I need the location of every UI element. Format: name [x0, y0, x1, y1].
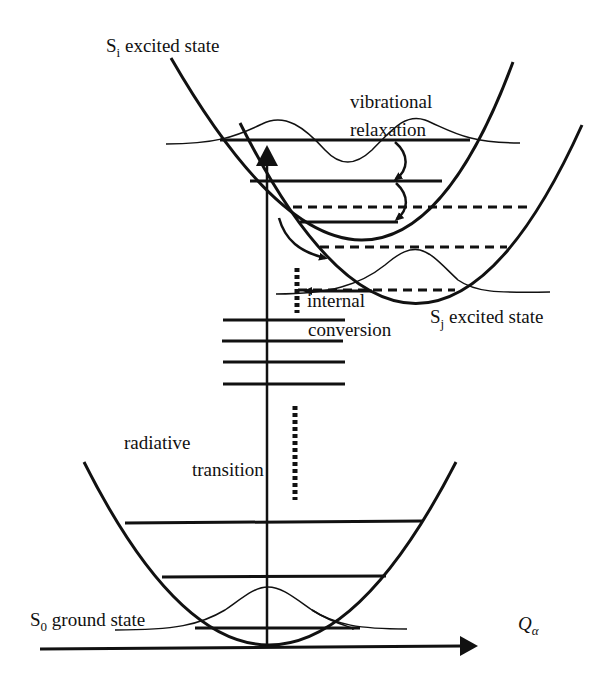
- q-alpha-label: Qα: [518, 613, 540, 638]
- vibrational-relaxation-arrow-1: [395, 142, 406, 179]
- si-vibrational-levels: [220, 140, 470, 222]
- s0-wavefunction: [115, 587, 354, 630]
- radiative-transition-arrowhead: [256, 145, 278, 166]
- q-alpha-axis-arrowhead: [460, 636, 478, 656]
- sj-vibrational-levels: [293, 207, 528, 290]
- internal-conversion-label-line1: internal: [307, 290, 365, 311]
- s0-vibrational-levels: [125, 521, 423, 628]
- q-alpha-axis: [40, 646, 462, 649]
- vibrational-relaxation-label-line1: vibrational: [350, 91, 432, 112]
- radiative-transition-label-line1: radiative: [124, 432, 190, 453]
- si-potential-curve: [171, 58, 513, 240]
- energy-diagram: Si excited state vibrational relaxation …: [0, 0, 604, 699]
- vibrational-relaxation-label-line2: relaxation: [350, 119, 426, 140]
- internal-conversion-label-line2: conversion: [308, 319, 392, 340]
- vibrational-relaxation-arrow-2: [396, 183, 406, 219]
- sj-potential-curve: [240, 123, 582, 304]
- si-label: Si excited state: [106, 35, 219, 60]
- radiative-transition-label-line2: transition: [192, 459, 264, 480]
- sj-label: Sj excited state: [430, 306, 543, 331]
